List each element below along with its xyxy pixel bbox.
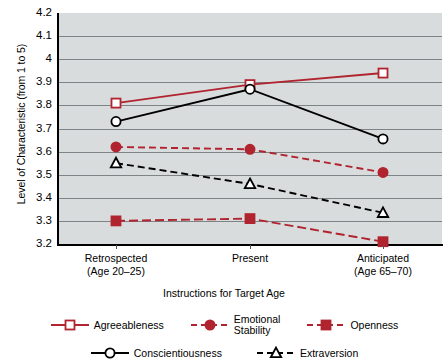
- x-tick-label: Retrospected(Age 20–25): [51, 252, 181, 277]
- x-tick-mark: [116, 245, 117, 249]
- data-point-open-triangle: [245, 179, 255, 189]
- series-conscientiousness: [111, 85, 387, 144]
- data-point-open-circle: [105, 348, 114, 357]
- data-point-open-triangle: [111, 158, 121, 168]
- x-tick-label: Anticipated(Age 65–70): [318, 252, 448, 277]
- legend-item-extraversion[interactable]: Extraversion: [256, 346, 358, 360]
- data-point-filled-circle: [245, 145, 254, 154]
- legend-item-conscientiousness[interactable]: Conscientiousness: [90, 346, 222, 360]
- x-tick-label: Present: [185, 252, 315, 265]
- legend-swatch: [190, 318, 230, 332]
- data-point-filled-circle: [378, 168, 387, 177]
- series-emotional-stability: [111, 142, 387, 177]
- x-tick-label-line1: Anticipated: [318, 252, 448, 265]
- legend-label: Extraversion: [300, 348, 358, 359]
- x-tick-label-line2: (Age 20–25): [51, 265, 181, 278]
- data-point-filled-circle: [111, 142, 120, 151]
- legend-item-agreeableness[interactable]: Agreeableness: [50, 318, 164, 332]
- data-point-open-circle: [245, 85, 254, 94]
- x-tick-mark: [383, 245, 384, 249]
- data-point-open-square: [65, 321, 74, 330]
- x-tick-label-line1: Present: [185, 252, 315, 265]
- legend-swatch: [90, 346, 130, 360]
- data-point-open-circle: [111, 117, 120, 126]
- legend-swatch: [306, 318, 346, 332]
- x-tick-mark: [250, 245, 251, 249]
- legend-row-2: ConscientiousnessExtraversion: [0, 346, 448, 360]
- legend-row-1: AgreeablenessEmotional StabilityOpenness: [0, 314, 448, 336]
- legend-label: Openness: [350, 320, 398, 331]
- x-tick-label-line2: (Age 65–70): [318, 265, 448, 278]
- legend-label: Emotional Stability: [234, 314, 281, 336]
- x-axis-title: Instructions for Target Age: [0, 287, 448, 299]
- data-point-open-circle: [378, 134, 387, 143]
- legend-item-emotional-stability[interactable]: Emotional Stability: [190, 314, 281, 336]
- series-openness: [112, 214, 388, 246]
- legend-swatch: [256, 346, 296, 360]
- data-point-open-square: [379, 69, 388, 78]
- chart-legend: AgreeablenessEmotional StabilityOpenness…: [0, 314, 448, 360]
- data-point-filled-circle: [205, 320, 214, 329]
- data-point-filled-square: [322, 321, 331, 330]
- legend-label: Conscientiousness: [134, 348, 222, 359]
- data-point-filled-square: [112, 216, 121, 225]
- data-point-open-square: [112, 99, 121, 108]
- legend-swatch: [50, 318, 90, 332]
- x-tick-label-line1: Retrospected: [51, 252, 181, 265]
- legend-label: Agreeableness: [94, 320, 164, 331]
- legend-item-openness[interactable]: Openness: [306, 318, 398, 332]
- data-point-filled-square: [246, 214, 255, 223]
